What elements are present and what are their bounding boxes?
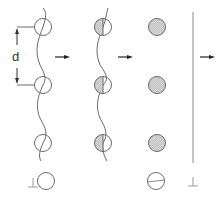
column-wave-half bbox=[95, 8, 112, 161]
shaded-circle bbox=[149, 19, 166, 36]
dim-down-arrowhead bbox=[15, 78, 19, 84]
diagram-canvas: d bbox=[0, 0, 223, 200]
arrow-right-icon bbox=[200, 55, 215, 59]
open-circle bbox=[38, 173, 55, 190]
bottom-symbol-perp-open-circle bbox=[28, 173, 55, 190]
half-shaded-circle bbox=[95, 135, 112, 152]
bottom-symbol-split-circle bbox=[148, 173, 165, 190]
shaded-circle bbox=[149, 135, 166, 152]
column-filled bbox=[149, 19, 166, 152]
arrow-right-icon bbox=[118, 55, 133, 59]
shaded-circle bbox=[149, 77, 166, 94]
bottom-symbol-perp-line bbox=[188, 177, 198, 186]
dim-label: d bbox=[12, 49, 19, 64]
column-wave-open bbox=[35, 8, 52, 161]
half-shaded-circle bbox=[95, 77, 112, 94]
arrow-right-icon bbox=[55, 55, 70, 59]
wave-curve bbox=[37, 8, 46, 161]
dimension-d: d bbox=[12, 27, 34, 85]
half-shaded-circle bbox=[95, 19, 112, 36]
dim-up-arrowhead bbox=[15, 28, 19, 34]
